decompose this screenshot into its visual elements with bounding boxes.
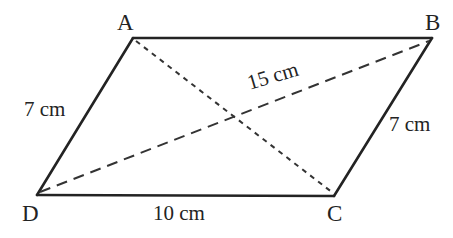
vertex-label-b: B	[425, 11, 440, 34]
parallelogram-figure	[0, 0, 453, 238]
measurement-label-side-bc: 7 cm	[389, 114, 430, 135]
vertex-label-d: D	[22, 202, 39, 225]
vertex-label-a: A	[117, 11, 134, 34]
measurement-label-side-ad: 7 cm	[24, 99, 65, 120]
side-dc-line	[37, 195, 334, 196]
diagonal-db-line	[40, 41, 429, 192]
measurement-label-side-dc: 10 cm	[153, 203, 205, 224]
geometry-diagram: A B C D 7 cm 7 cm 10 cm 15 cm	[0, 0, 453, 238]
vertex-label-c: C	[327, 202, 342, 225]
